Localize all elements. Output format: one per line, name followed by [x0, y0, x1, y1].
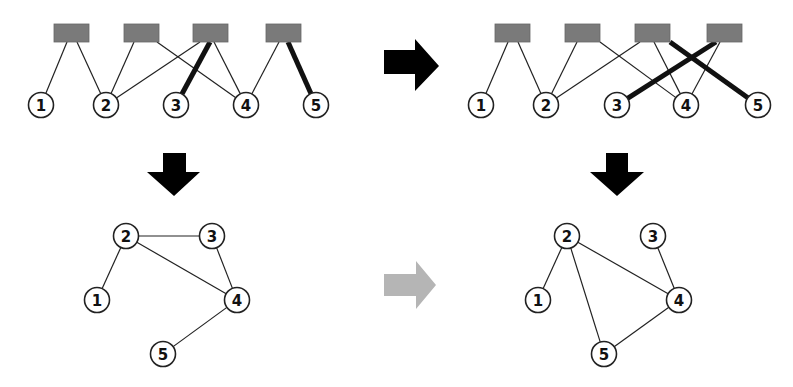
arrow-left-down-icon: [147, 153, 200, 196]
edge-2-1: [543, 247, 562, 288]
circle-nodes: 12345: [469, 93, 771, 118]
arrow-bottom-right-icon: [384, 261, 436, 309]
circle-node-4: 4: [234, 93, 259, 118]
node-label: 1: [533, 292, 543, 310]
circle-node-2: 2: [94, 93, 119, 118]
circle-node-3: 3: [605, 93, 630, 118]
node-label: 3: [648, 228, 658, 246]
circle-node-2: 2: [555, 224, 580, 249]
diagram-canvas: 12345 12345 12345 12345: [0, 0, 793, 387]
edges: [102, 236, 232, 347]
edge-D-3-swapped: [628, 42, 716, 98]
node-label: 5: [311, 97, 321, 115]
edge-C-2: [556, 42, 640, 98]
edge-D-5-swapped: [288, 42, 311, 94]
arrows: [147, 39, 644, 309]
circle-node-2: 2: [114, 224, 139, 249]
edge-2-4: [578, 242, 668, 294]
edge-A-1: [486, 42, 508, 94]
edge-2-1: [102, 247, 121, 288]
edge-C-3-swapped: [182, 42, 210, 94]
node-label: 3: [207, 228, 217, 246]
node-label: 4: [232, 292, 242, 310]
circle-node-3: 3: [164, 93, 189, 118]
circle-node-1: 1: [469, 93, 494, 118]
bipartite-graph-before: 12345: [29, 24, 329, 118]
node-label: 5: [753, 97, 763, 115]
box-nodes: [54, 24, 301, 42]
circle-node-1: 1: [85, 288, 110, 313]
circle-node-3: 3: [641, 224, 666, 249]
node-label: 2: [121, 228, 131, 246]
node-label: 4: [241, 97, 251, 115]
circle-nodes: 12345: [526, 224, 692, 367]
circle-node-5: 5: [592, 342, 617, 367]
node-label: 1: [476, 97, 486, 115]
box-nodes: [495, 24, 742, 42]
circle-nodes: 12345: [85, 224, 250, 367]
projected-graph-after: 12345: [526, 224, 692, 367]
circle-node-4: 4: [674, 93, 699, 118]
circle-node-1: 1: [29, 93, 54, 118]
arrow-right-down-icon: [590, 153, 644, 196]
edges: [486, 42, 748, 98]
edge-B-2: [111, 42, 134, 94]
edge-D-4: [252, 42, 279, 94]
edge-A-2: [77, 42, 101, 94]
bipartite-graph-after: 12345: [469, 24, 771, 118]
edge-C-2: [116, 42, 200, 98]
box-node-D: [707, 24, 742, 42]
node-label: 2: [101, 97, 111, 115]
edges: [543, 242, 674, 346]
box-node-C: [635, 24, 670, 42]
arrow-top-right-icon: [384, 39, 439, 91]
edges: [46, 42, 311, 98]
circle-node-1: 1: [526, 288, 551, 313]
edge-C-5-swapped: [670, 42, 748, 98]
edge-2-4: [137, 242, 226, 294]
node-label: 3: [612, 97, 622, 115]
edge-4-5: [173, 307, 227, 346]
box-node-B: [565, 24, 600, 42]
box-node-A: [54, 24, 89, 42]
circle-node-4: 4: [225, 288, 250, 313]
node-label: 1: [36, 97, 46, 115]
node-label: 5: [599, 346, 609, 364]
circle-nodes: 12345: [29, 93, 329, 118]
projected-graph-before: 12345: [85, 224, 250, 367]
circle-node-5: 5: [746, 93, 771, 118]
box-node-D: [266, 24, 301, 42]
circle-node-3: 3: [200, 224, 225, 249]
circle-node-4: 4: [667, 288, 692, 313]
circle-node-5: 5: [304, 93, 329, 118]
node-label: 2: [562, 228, 572, 246]
edge-4-5: [614, 307, 669, 346]
box-node-B: [124, 24, 159, 42]
edge-3-4: [217, 248, 233, 289]
node-label: 3: [171, 97, 181, 115]
edge-B-2: [552, 42, 577, 94]
box-node-A: [495, 24, 530, 42]
box-node-C: [193, 24, 228, 42]
node-label: 4: [674, 292, 684, 310]
circle-node-5: 5: [151, 342, 176, 367]
edge-C-4: [214, 42, 240, 94]
circle-node-2: 2: [534, 93, 559, 118]
edge-2-5: [571, 248, 601, 342]
node-label: 4: [681, 97, 691, 115]
node-label: 2: [541, 97, 551, 115]
node-label: 5: [158, 346, 168, 364]
node-label: 1: [92, 292, 102, 310]
edge-A-2: [518, 42, 541, 94]
edge-3-4: [658, 248, 675, 289]
edge-A-1: [46, 42, 67, 93]
